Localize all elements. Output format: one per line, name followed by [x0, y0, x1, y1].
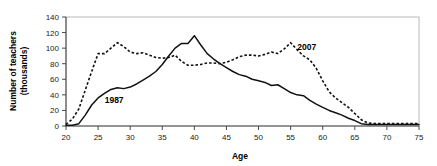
x-tick-label: 40	[190, 133, 199, 142]
series-label-1987: 1987	[105, 95, 124, 105]
x-tick-label: 50	[254, 133, 263, 142]
line-chart: 020406080100120140 202530354045505560657…	[0, 0, 437, 166]
x-axis: 202530354045505560657075	[62, 126, 424, 142]
x-tick-label: 35	[158, 133, 167, 142]
x-tick-label: 20	[62, 133, 71, 142]
series-line-2007	[66, 43, 419, 125]
x-tick-label: 60	[318, 133, 327, 142]
y-tick-label: 20	[50, 106, 59, 115]
series-label-2007: 2007	[297, 42, 316, 52]
x-tick-label: 70	[382, 133, 391, 142]
y-axis-title-line2: (thousands)	[19, 47, 29, 96]
x-tick-label: 25	[94, 133, 103, 142]
y-tick-label: 0	[55, 122, 60, 131]
x-tick-label: 45	[222, 133, 231, 142]
y-tick-label: 120	[46, 29, 60, 38]
y-tick-label: 100	[46, 44, 60, 53]
y-axis-title: Number of teachers (thousands)	[8, 31, 29, 111]
x-axis-title: Age	[232, 151, 248, 161]
x-tick-label: 55	[286, 133, 295, 142]
y-tick-label: 60	[50, 75, 59, 84]
x-tick-marks	[66, 126, 419, 130]
plot-area-border	[66, 17, 419, 126]
x-tick-label: 75	[415, 133, 424, 142]
chart-container: 020406080100120140 202530354045505560657…	[0, 0, 437, 166]
x-tick-label: 65	[350, 133, 359, 142]
y-tick-label: 140	[46, 13, 60, 22]
y-axis: 020406080100120140	[46, 13, 66, 131]
x-tick-label: 30	[126, 133, 135, 142]
series-line-1987	[66, 36, 419, 126]
y-axis-title-line1: Number of teachers	[8, 31, 18, 111]
y-tick-label: 40	[50, 91, 59, 100]
x-tick-labels: 202530354045505560657075	[62, 133, 424, 142]
y-tick-marks	[62, 17, 66, 126]
y-tick-label: 80	[50, 60, 59, 69]
y-tick-labels: 020406080100120140	[46, 13, 60, 131]
